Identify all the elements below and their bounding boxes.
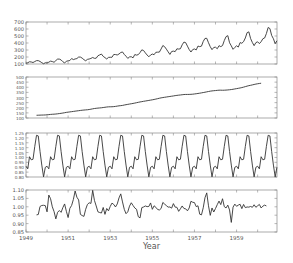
y-tick-label: 150 [16, 111, 24, 116]
y-tick-label: 100 [14, 61, 24, 67]
y-tick-label: 0.90 [12, 221, 24, 227]
panel-frame [26, 77, 277, 118]
residual-line [37, 190, 267, 222]
x-tick-label: 1957 [187, 235, 201, 241]
y-tick-label: 1.05 [15, 151, 25, 156]
y-tick-label: 1.10 [12, 187, 24, 193]
panel-residual: 0.850.900.951.001.051.10 [12, 187, 277, 235]
y-tick-label: 1.05 [12, 195, 24, 201]
y-tick-label: 450 [16, 80, 24, 85]
panel-frame [26, 190, 277, 232]
x-tick-label: 1951 [61, 235, 75, 241]
y-tick-label: 1.10 [15, 146, 25, 151]
panel-seasonal: 0.800.850.900.951.001.051.101.151.201.25 [15, 131, 277, 180]
x-axis: 194919511953195519571959 [19, 235, 244, 241]
y-tick-label: 0.95 [15, 160, 25, 165]
x-tick-label: 1955 [145, 235, 159, 241]
y-tick-label: 200 [16, 106, 24, 111]
y-tick-label: 600 [14, 26, 24, 32]
y-tick-label: 300 [16, 96, 24, 101]
x-tick-label: 1959 [230, 235, 244, 241]
y-tick-label: 250 [16, 101, 24, 106]
decomposition-chart: 1002003004005006007001001502002503003504… [0, 0, 293, 263]
x-tick-label: 1953 [103, 235, 117, 241]
x-tick-label: 1949 [19, 235, 33, 241]
y-tick-label: 300 [14, 47, 24, 53]
panel-trend: 100150200250300350400450500 [16, 75, 277, 121]
y-tick-label: 100 [16, 116, 24, 121]
y-tick-label: 700 [14, 19, 24, 25]
y-tick-label: 0.85 [15, 170, 25, 175]
panel-frame [26, 22, 277, 64]
y-tick-label: 1.00 [15, 155, 25, 160]
chart-panels: 1002003004005006007001001502002503003504… [12, 19, 277, 235]
y-tick-label: 400 [14, 40, 24, 46]
y-tick-label: 500 [14, 33, 24, 39]
y-tick-label: 350 [16, 90, 24, 95]
y-tick-label: 200 [14, 54, 24, 60]
trend-line [37, 83, 262, 115]
seasonal-line [26, 135, 277, 177]
y-tick-label: 0.90 [15, 165, 25, 170]
y-tick-label: 1.25 [15, 131, 25, 136]
y-tick-label: 400 [16, 85, 24, 90]
y-tick-label: 1.00 [12, 204, 24, 210]
panel-observed: 100200300400500600700 [14, 19, 277, 67]
y-tick-label: 1.20 [15, 136, 25, 141]
y-tick-label: 0.95 [12, 212, 24, 218]
y-tick-label: 500 [16, 75, 24, 80]
y-tick-label: 0.80 [15, 175, 25, 180]
x-axis-label: Year [142, 242, 161, 251]
y-tick-label: 1.15 [15, 141, 25, 146]
observed-line [26, 27, 277, 63]
